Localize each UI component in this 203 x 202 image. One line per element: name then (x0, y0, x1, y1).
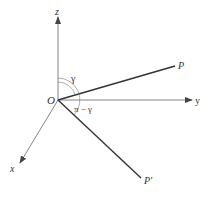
origin-label: O (47, 94, 55, 106)
gamma-label: γ (70, 73, 76, 84)
pi-minus-gamma-label: π − γ (74, 104, 92, 114)
coordinate-diagram: z y x O P P′ γ π − γ (0, 0, 203, 202)
vector-p-prime-label: P′ (143, 175, 153, 186)
diagram-canvas: z y x O P P′ γ π − γ (0, 0, 203, 202)
vector-p-prime (58, 100, 141, 178)
vector-p-label: P (177, 60, 184, 71)
x-axis (20, 100, 58, 163)
y-axis-label: y (195, 95, 200, 106)
z-axis-label: z (54, 6, 59, 17)
x-axis-label: x (9, 163, 15, 174)
